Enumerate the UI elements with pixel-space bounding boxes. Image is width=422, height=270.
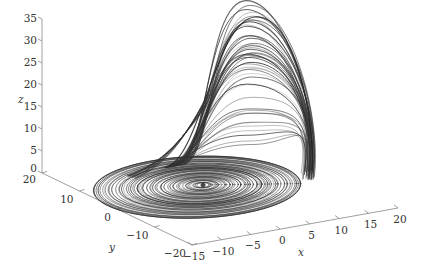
z-tick-label: 10 <box>24 122 37 134</box>
y-tick-label: 20 <box>23 173 36 185</box>
y-tick-label: 10 <box>60 193 73 205</box>
z-tick-label: 35 <box>24 12 37 24</box>
z-tick-label: 15 <box>24 100 37 112</box>
x-tick-label: −10 <box>212 245 234 257</box>
x-tick-label: −15 <box>183 250 205 262</box>
x-tick-label: −5 <box>245 239 260 251</box>
lorenz-3d-plot: 05101520253035 20100−10−20 −15−10−505101… <box>0 0 422 270</box>
z-tick-label: 20 <box>24 78 37 90</box>
x-tick-label: 5 <box>308 229 315 241</box>
x-tick-label: 15 <box>364 218 377 230</box>
z-axis: 05101520253035 <box>24 12 42 174</box>
z-tick-label: 30 <box>24 34 37 46</box>
z-tick-label: 5 <box>30 144 37 156</box>
z-axis-label: z <box>17 93 24 105</box>
x-tick-label: 20 <box>393 213 406 225</box>
x-axis-label: x <box>298 246 304 258</box>
y-tick-label: −10 <box>126 229 148 241</box>
y-axis-label: y <box>108 241 116 253</box>
x-tick-label: 10 <box>334 224 347 236</box>
z-tick-label: 25 <box>24 56 37 68</box>
trajectory-curves <box>92 1 315 222</box>
x-tick-label: 0 <box>279 234 286 246</box>
y-tick-label: 0 <box>104 211 111 223</box>
